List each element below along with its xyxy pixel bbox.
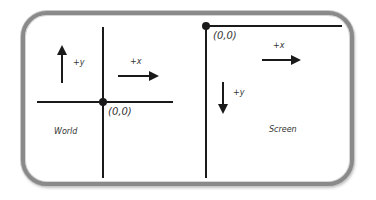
screen-x-label: +x	[273, 41, 284, 50]
diagram-canvas	[0, 0, 376, 200]
world-y-label: +y	[73, 58, 84, 67]
screen-origin-label: (0,0)	[213, 30, 237, 41]
world-panel-label: World	[54, 127, 77, 136]
screen-y-label: +y	[233, 88, 244, 97]
world-origin-label: (0,0)	[108, 106, 132, 117]
world-x-label: +x	[130, 57, 141, 66]
screen-panel-label: Screen	[269, 125, 297, 134]
world-panel	[37, 27, 173, 178]
world-origin-dot	[99, 98, 107, 106]
screen-panel	[202, 22, 342, 178]
screen-origin-dot	[202, 22, 210, 30]
